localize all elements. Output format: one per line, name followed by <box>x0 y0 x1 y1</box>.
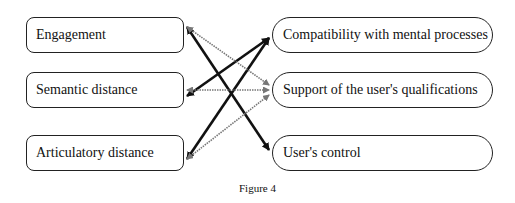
node-label: Engagement <box>36 27 106 43</box>
node-semantic-distance: Semantic distance <box>26 72 184 108</box>
edge-articulatory-support-dotted <box>187 95 269 159</box>
node-label: Articulatory distance <box>36 145 154 161</box>
node-label: User's control <box>283 145 361 161</box>
node-articulatory-distance: Articulatory distance <box>26 135 184 171</box>
node-label: Support of the user's qualifications <box>283 82 478 98</box>
node-label: Compatibility with mental processes <box>283 27 488 43</box>
node-support-qualifications: Support of the user's qualifications <box>272 72 493 108</box>
figure-caption: Figure 4 <box>0 182 515 194</box>
node-compatibility: Compatibility with mental processes <box>272 17 493 53</box>
node-users-control: User's control <box>272 135 493 171</box>
node-label: Semantic distance <box>36 82 137 98</box>
node-engagement: Engagement <box>26 17 184 53</box>
